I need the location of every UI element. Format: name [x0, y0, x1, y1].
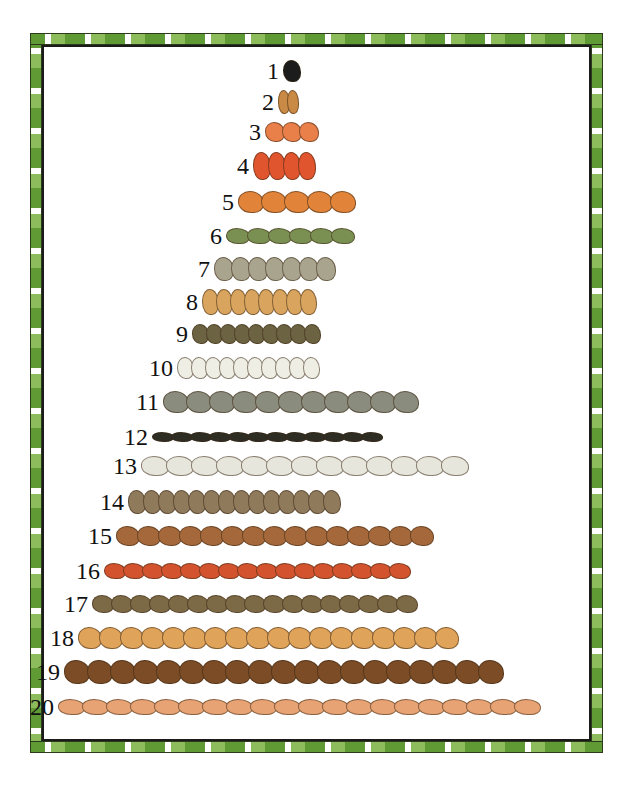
turtle-icon: [396, 595, 418, 613]
fish-icon: [58, 699, 85, 715]
panda-group: [283, 57, 298, 85]
pyramid-row-7: 7: [176, 255, 333, 283]
fish-icon: [154, 699, 181, 715]
pyramid-row-18: 18: [40, 624, 456, 652]
fish-icon: [178, 699, 205, 715]
row-number: 1: [245, 57, 279, 85]
beluga-whale-icon: [291, 456, 319, 476]
pyramid-row-14: 14: [90, 488, 338, 516]
row-number: 7: [176, 255, 210, 283]
tiger-group: [238, 188, 353, 216]
beluga-whale-icon: [441, 456, 469, 476]
row-number: 17: [54, 590, 88, 618]
parrot-icon: [298, 152, 316, 180]
beetle-icon: [361, 432, 383, 442]
fish-icon: [250, 699, 277, 715]
row-number: 16: [66, 557, 100, 585]
fish-icon: [514, 699, 541, 715]
crocodile-group: [226, 222, 352, 250]
pyramid-row-1: 1: [245, 57, 298, 85]
beluga-whale-icon: [341, 456, 369, 476]
bird-group: [192, 320, 318, 348]
giraffe-icon: [287, 90, 299, 114]
goat-group: [177, 354, 317, 382]
pyramid-row-2: 2: [240, 88, 296, 116]
fish-icon: [442, 699, 469, 715]
crocodile-icon: [331, 228, 355, 244]
row-number: 9: [154, 320, 188, 348]
row-number: 20: [20, 693, 54, 721]
crab-group: [104, 557, 408, 585]
beluga-whale-icon: [316, 456, 344, 476]
panda-icon: [283, 60, 301, 82]
beluga-whale-icon: [391, 456, 419, 476]
fish-icon: [274, 699, 301, 715]
kangaroo-group: [116, 522, 431, 550]
penguin-group: [128, 488, 338, 516]
starfish-icon: [299, 122, 319, 142]
fish-icon: [370, 699, 397, 715]
fish-group: [58, 693, 538, 721]
fish-icon: [322, 699, 349, 715]
pyramid-row-13: 13: [103, 452, 466, 480]
llama-group: [202, 288, 314, 316]
fish-icon: [466, 699, 493, 715]
pyramid-row-8: 8: [164, 288, 314, 316]
row-number: 6: [188, 222, 222, 250]
pyramid-row-6: 6: [188, 222, 352, 250]
elephant-group: [163, 388, 416, 416]
row-number: 5: [200, 188, 234, 216]
crab-icon: [389, 563, 411, 579]
fish-icon: [130, 699, 157, 715]
fish-icon: [490, 699, 517, 715]
row-number: 18: [40, 624, 74, 652]
ape-icon: [316, 257, 336, 281]
beluga-whale-icon: [366, 456, 394, 476]
beluga-whale-icon: [416, 456, 444, 476]
fish-icon: [226, 699, 253, 715]
beluga-whale-icon: [216, 456, 244, 476]
giraffe-group: [278, 88, 296, 116]
row-number: 11: [125, 388, 159, 416]
fish-icon: [82, 699, 109, 715]
beluga-whale-group: [141, 452, 466, 480]
row-number: 14: [90, 488, 124, 516]
pyramid-row-10: 10: [139, 354, 317, 382]
row-number: 4: [215, 152, 249, 180]
fish-icon: [106, 699, 133, 715]
fish-icon: [298, 699, 325, 715]
penguin-icon: [323, 490, 341, 514]
beluga-whale-icon: [166, 456, 194, 476]
row-number: 13: [103, 452, 137, 480]
pyramid-row-9: 9: [154, 320, 318, 348]
turtle-group: [92, 590, 415, 618]
pyramid-row-12: 12: [114, 423, 380, 451]
beluga-whale-icon: [141, 456, 169, 476]
fish-icon: [346, 699, 373, 715]
beetle-group: [152, 423, 380, 451]
green-border-bottom: [30, 741, 603, 753]
pyramid-row-15: 15: [78, 522, 431, 550]
beluga-whale-icon: [191, 456, 219, 476]
bird-icon: [304, 324, 321, 344]
goat-icon: [303, 357, 320, 379]
fish-icon: [418, 699, 445, 715]
tiger-icon: [330, 191, 356, 213]
meerkat-icon: [435, 627, 459, 649]
beluga-whale-icon: [241, 456, 269, 476]
green-border-right: [591, 33, 603, 753]
parrot-group: [253, 152, 313, 180]
row-number: 15: [78, 522, 112, 550]
llama-icon: [300, 289, 317, 315]
pyramid-row-16: 16: [66, 557, 408, 585]
elephant-icon: [393, 391, 419, 413]
green-border-top: [30, 33, 603, 45]
row-number: 8: [164, 288, 198, 316]
pyramid-row-17: 17: [54, 590, 415, 618]
row-number: 2: [240, 88, 274, 116]
row-number: 12: [114, 423, 148, 451]
beluga-whale-icon: [266, 456, 294, 476]
row-number: 19: [26, 658, 60, 686]
kangaroo-icon: [410, 526, 434, 546]
ape-group: [214, 255, 333, 283]
